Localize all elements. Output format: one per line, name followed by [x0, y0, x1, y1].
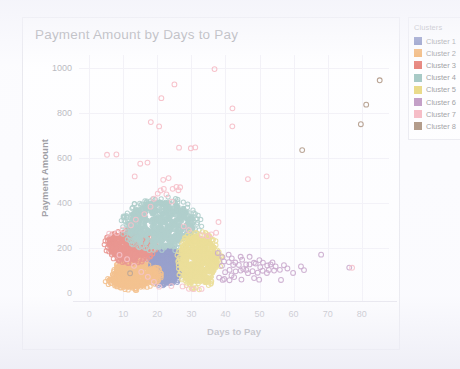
scatter-point — [227, 267, 232, 272]
scatter-point — [154, 203, 158, 207]
scatter-point — [161, 177, 166, 182]
scatter-point — [319, 252, 324, 257]
y-tick-label: 1000 — [52, 63, 72, 73]
scatter-point — [143, 225, 147, 229]
x-tick-label: 80 — [357, 309, 367, 319]
scatter-point — [187, 264, 191, 268]
scatter-point — [300, 148, 305, 153]
scatter-point — [172, 82, 177, 87]
legend-item[interactable]: Cluster 7 — [414, 108, 460, 120]
scatter-point — [257, 277, 262, 282]
scatter-point — [127, 251, 131, 255]
x-tick-label: 50 — [255, 309, 265, 319]
x-tick-label: 40 — [220, 309, 230, 319]
scatter-point — [166, 176, 171, 181]
scatter-point — [177, 213, 181, 217]
scatter-point — [124, 274, 128, 278]
legend-item[interactable]: Cluster 5 — [414, 84, 460, 96]
scatter-point — [133, 252, 137, 256]
scatter-point — [250, 269, 255, 274]
scatter-point — [255, 270, 260, 275]
scatter-point — [236, 263, 241, 268]
scatter-point — [138, 230, 142, 234]
scatter-point — [148, 231, 152, 235]
scatter-point — [155, 191, 160, 196]
legend-swatch-icon — [414, 49, 422, 57]
scatter-point — [358, 122, 363, 127]
legend-item[interactable]: Cluster 2 — [414, 47, 460, 59]
scatter-point — [161, 254, 165, 258]
scatter-point — [161, 216, 165, 220]
legend-item-label: Cluster 7 — [426, 110, 456, 119]
scatter-point — [176, 237, 180, 241]
scatter-point — [163, 221, 167, 225]
legend-item-label: Cluster 5 — [426, 85, 456, 94]
scatter-point — [202, 247, 206, 251]
scatter-point — [364, 102, 369, 107]
scatter-point — [155, 218, 159, 222]
scatter-point — [227, 278, 232, 283]
plot-area: 02004006008001000 01020304050607080 — [79, 55, 389, 302]
legend-item[interactable]: Cluster 8 — [414, 120, 460, 132]
x-axis-title: Days to Pay — [79, 326, 389, 337]
scatter-point — [195, 266, 199, 270]
legend-item-label: Cluster 3 — [426, 61, 456, 70]
scatter-point — [159, 96, 164, 101]
scatter-point — [205, 266, 209, 270]
scatter-point — [193, 239, 197, 243]
scatter-point — [189, 218, 193, 222]
scatter-point — [170, 267, 174, 271]
scatter-point — [197, 259, 201, 263]
scatter-point — [377, 78, 382, 83]
legend-item[interactable]: Cluster 6 — [414, 96, 460, 108]
scatter-point — [202, 272, 206, 276]
scatter-point — [183, 258, 187, 262]
scatter-point — [239, 277, 244, 282]
scatter-point — [291, 271, 296, 276]
scatter-point — [171, 209, 175, 213]
chart-title: Payment Amount by Days to Pay — [35, 27, 238, 42]
scatter-point — [179, 233, 183, 237]
scatter-point — [138, 161, 143, 166]
scatter-point — [145, 240, 149, 244]
scatter-point — [261, 260, 266, 265]
scatter-point — [214, 230, 219, 235]
legend-title: Clusters — [414, 23, 460, 32]
scatter-point — [191, 208, 195, 212]
scatter-point — [158, 206, 162, 210]
scatter-point — [189, 269, 193, 273]
scatter-point — [302, 268, 307, 273]
scatter-point — [252, 276, 257, 281]
scatter-point — [135, 227, 139, 231]
scatter-point — [196, 252, 200, 256]
scatter-points — [79, 55, 389, 302]
legend-item[interactable]: Cluster 1 — [414, 35, 460, 47]
legend-item[interactable]: Cluster 3 — [414, 59, 460, 71]
chart-card: Payment Amount by Days to Pay 0200400600… — [22, 17, 400, 350]
scatter-point — [222, 276, 227, 281]
scatter-point — [285, 266, 290, 271]
scatter-point — [202, 256, 206, 260]
scatter-point — [137, 213, 141, 217]
x-tick-label: 0 — [87, 309, 92, 319]
scatter-point — [132, 174, 137, 179]
legend-item-label: Cluster 8 — [426, 122, 456, 131]
legend-item-label: Cluster 4 — [426, 73, 456, 82]
legend-item-label: Cluster 1 — [426, 37, 456, 46]
legend-swatch-icon — [414, 110, 422, 118]
legend-item-label: Cluster 2 — [426, 49, 456, 58]
scatter-point — [279, 278, 284, 283]
scatter-point — [175, 218, 179, 222]
scatter-point — [229, 256, 234, 261]
x-tick-label: 30 — [186, 309, 196, 319]
legend-swatch-icon — [414, 98, 422, 106]
scatter-point — [150, 225, 154, 229]
scatter-point — [154, 239, 158, 243]
scatter-point — [164, 200, 168, 204]
scatter-point — [127, 281, 131, 285]
y-tick-label: 800 — [57, 108, 72, 118]
x-tick-label: 10 — [118, 309, 128, 319]
scatter-point — [193, 270, 197, 274]
legend-item[interactable]: Cluster 4 — [414, 72, 460, 84]
scatter-point — [145, 160, 150, 165]
